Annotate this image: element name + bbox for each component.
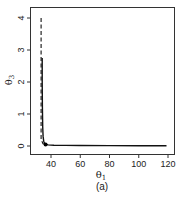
figure-caption: (a) — [96, 181, 108, 192]
x-tick-label: 100 — [131, 159, 146, 169]
plot-frame — [31, 8, 175, 155]
x-tick-label: 80 — [104, 159, 114, 169]
y-tick-label: 1 — [16, 111, 26, 116]
x-tick-label: 60 — [75, 159, 85, 169]
solid-line-series — [42, 58, 166, 146]
y-tick-label: 3 — [16, 47, 26, 52]
y-tick-label: 4 — [16, 15, 26, 20]
x-tick-label: 120 — [160, 159, 175, 169]
y-tick-label: 2 — [16, 79, 26, 84]
series-layer — [41, 18, 166, 146]
chart: 406080100120 01234 θ1 θ3 (a) — [0, 0, 185, 200]
estimate-point — [44, 142, 48, 146]
x-tick-label: 40 — [46, 159, 56, 169]
y-axis-ticks: 01234 — [16, 15, 31, 148]
y-axis-title: θ3 — [3, 75, 16, 86]
y-tick-label: 0 — [16, 143, 26, 148]
x-axis-ticks: 406080100120 — [46, 155, 176, 169]
